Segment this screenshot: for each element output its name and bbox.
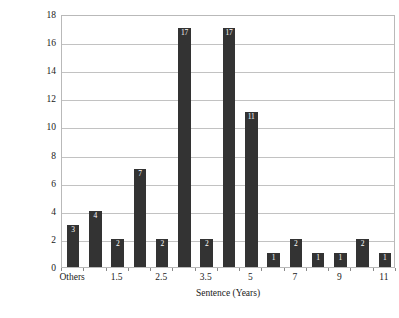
bar: 4 xyxy=(89,211,101,267)
x-tick xyxy=(284,268,285,271)
bar: 2 xyxy=(156,239,168,267)
x-tick xyxy=(373,268,374,271)
x-tick xyxy=(195,268,196,271)
y-tick-label: 14 xyxy=(47,66,57,76)
x-axis-tick-labels: Others1.52.53.557911 xyxy=(61,272,395,286)
bar-value-label: 17 xyxy=(178,29,190,37)
x-tick-label: 2.5 xyxy=(155,272,167,282)
bar-value-label: 2 xyxy=(200,240,212,248)
x-tick xyxy=(217,268,218,271)
x-tick xyxy=(61,268,62,271)
x-tick-label: 3.5 xyxy=(200,272,212,282)
bar: 3 xyxy=(67,225,79,267)
y-tick-label: 6 xyxy=(51,179,56,189)
x-tick xyxy=(128,268,129,271)
bar: 1 xyxy=(379,253,391,267)
bar-value-label: 2 xyxy=(111,240,123,248)
bar-value-label: 2 xyxy=(290,240,302,248)
y-tick-label: 16 xyxy=(47,38,57,48)
bar: 17 xyxy=(178,28,190,267)
x-tick xyxy=(350,268,351,271)
bar-value-label: 7 xyxy=(134,170,146,178)
bar: 7 xyxy=(134,169,146,267)
x-tick xyxy=(150,268,151,271)
x-tick xyxy=(395,268,396,271)
bar: 2 xyxy=(200,239,212,267)
bars-layer: 342721721711121121 xyxy=(62,16,394,267)
y-tick-label: 0 xyxy=(51,263,56,273)
y-axis-tick-labels: 024681012141618 xyxy=(28,15,56,268)
bar: 1 xyxy=(312,253,324,267)
x-axis-title: Sentence (Years) xyxy=(61,288,395,298)
bar-value-label: 11 xyxy=(245,113,257,121)
bar-value-label: 1 xyxy=(312,254,324,262)
x-tick xyxy=(261,268,262,271)
bar-chart: No. of Persons 024681012141618 342721721… xyxy=(0,0,399,318)
bar-value-label: 17 xyxy=(223,29,235,37)
x-tick xyxy=(328,268,329,271)
x-tick xyxy=(83,268,84,271)
x-tick-label: 11 xyxy=(379,272,388,282)
y-tick-label: 4 xyxy=(51,207,56,217)
bar-value-label: 1 xyxy=(267,254,279,262)
x-tick-label: 7 xyxy=(292,272,297,282)
y-tick-label: 2 xyxy=(51,235,56,245)
y-tick-label: 18 xyxy=(47,10,57,20)
bar: 11 xyxy=(245,112,257,267)
y-tick-label: 10 xyxy=(47,122,57,132)
x-tick-label: 1.5 xyxy=(111,272,123,282)
bar: 2 xyxy=(111,239,123,267)
x-tick xyxy=(239,268,240,271)
bar-value-label: 3 xyxy=(67,226,79,234)
bar: 17 xyxy=(223,28,235,267)
bar-value-label: 1 xyxy=(379,254,391,262)
bar: 1 xyxy=(334,253,346,267)
x-tick-label: 9 xyxy=(337,272,342,282)
bar-value-label: 2 xyxy=(156,240,168,248)
bar: 2 xyxy=(290,239,302,267)
x-tick-label: Others xyxy=(59,272,84,282)
bar-value-label: 4 xyxy=(89,212,101,220)
y-tick-label: 8 xyxy=(51,151,56,161)
x-tick xyxy=(306,268,307,271)
bar-value-label: 2 xyxy=(356,240,368,248)
bar: 2 xyxy=(356,239,368,267)
x-tick-label: 5 xyxy=(248,272,253,282)
plot-area: 342721721711121121 xyxy=(61,15,395,268)
x-tick xyxy=(172,268,173,271)
y-tick-label: 12 xyxy=(47,94,57,104)
bar-value-label: 1 xyxy=(334,254,346,262)
bar: 1 xyxy=(267,253,279,267)
x-tick xyxy=(106,268,107,271)
